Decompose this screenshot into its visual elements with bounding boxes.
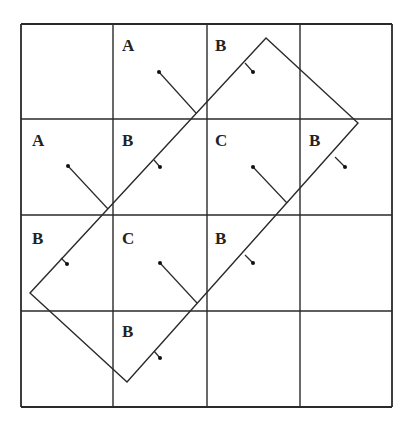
distance-line (68, 166, 108, 209)
grid-cell-2-0: B (32, 229, 69, 266)
distance-line (160, 263, 197, 303)
cell-label: B (32, 229, 43, 248)
grid-cell-0-2: B (215, 36, 255, 74)
cell-label: B (309, 131, 320, 150)
distance-line (159, 72, 196, 113)
point-dot (65, 262, 69, 266)
cell-label: A (122, 36, 135, 55)
grid-diagram: ABABCBBCBB (0, 0, 409, 424)
point-dot (251, 70, 255, 74)
cell-label: B (122, 322, 133, 341)
rotated-rectangle (30, 38, 358, 382)
grid-cell-3-1: B (122, 322, 162, 360)
point-dot (158, 356, 162, 360)
grid-cell-2-2: B (215, 229, 255, 265)
point-dot (343, 165, 347, 169)
cell-label: C (215, 131, 227, 150)
tick-line (335, 157, 345, 167)
grid-lines (21, 24, 392, 407)
grid-cell-1-2: C (215, 131, 287, 203)
point-dot (157, 70, 161, 74)
grid-cell-1-1: B (122, 131, 162, 169)
grid-cell-0-1: A (122, 36, 196, 113)
cell-label: B (215, 229, 226, 248)
grid-cell-1-3: B (309, 131, 347, 169)
cell-label: A (32, 131, 45, 150)
cell-label: C (122, 229, 134, 248)
cell-label: B (122, 131, 133, 150)
cell-label: B (215, 36, 226, 55)
point-dot (158, 261, 162, 265)
grid-cell-1-0: A (32, 131, 108, 209)
point-dot (251, 261, 255, 265)
distance-line (253, 167, 287, 203)
point-dot (66, 164, 70, 168)
point-dot (251, 165, 255, 169)
point-dot (158, 165, 162, 169)
grid-cell-2-1: C (122, 229, 197, 303)
